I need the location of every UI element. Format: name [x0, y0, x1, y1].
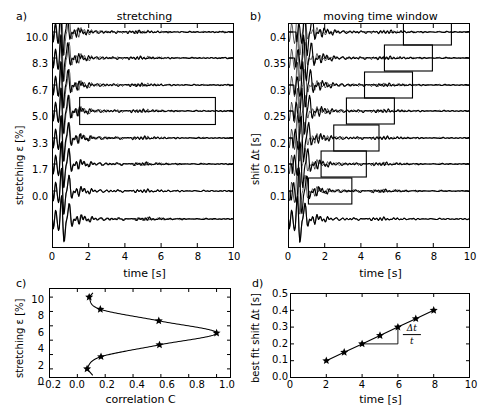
- panel-d-plot: Δtt: [290, 293, 470, 378]
- panel-b-ytick-5: 0.15: [248, 164, 286, 175]
- panel-c-data-point: [96, 305, 104, 313]
- panel-c-ytick-5: 10: [12, 294, 44, 305]
- panel-c-xtick-6: 1.0: [212, 379, 242, 390]
- panel-a-xtick-2: 4: [112, 251, 138, 262]
- panel-c-correlation-curve: [87, 293, 216, 376]
- panel-d-data-point: [322, 357, 330, 365]
- panel-b-trace-group: [289, 168, 470, 214]
- panel-c-data-point: [156, 341, 164, 349]
- panel-d-ytick-5: 0.5: [258, 288, 288, 299]
- panel-c-ytick-3: 6: [16, 327, 44, 338]
- panel-a-trace-group: [53, 23, 234, 55]
- panel-d-xtick-1: 2: [313, 379, 339, 390]
- panel-a-trace-group: [53, 35, 234, 82]
- panel-b-ytick-3: 0.25: [248, 111, 286, 122]
- panel-b-xtick-2: 4: [348, 251, 374, 262]
- panel-a-xtick-3: 6: [148, 251, 174, 262]
- panel-b-shifted-trace: [289, 196, 470, 242]
- panel-c-data-point: [97, 352, 105, 360]
- panel-b-ytick-0: 0.4: [248, 32, 286, 43]
- panel-c-ytick-1: 2: [16, 360, 44, 371]
- panel-a-ytick-1: 8.3: [10, 58, 48, 69]
- panel-d-ytick-4: 0.4: [258, 305, 288, 316]
- panel-b-reference-trace: [289, 23, 470, 55]
- panel-d-ytick-2: 0.2: [258, 338, 288, 349]
- panel-b-title: moving time window: [288, 10, 473, 23]
- panel-b-trace-group: [289, 23, 470, 56]
- panel-b-shifted-trace: [289, 23, 470, 55]
- panel-b-plot: [288, 23, 470, 248]
- panel-d-xtick-0: 0: [277, 379, 303, 390]
- panel-b-shifted-trace: [289, 62, 470, 107]
- panel-c-data-point: [155, 317, 163, 325]
- panel-a-xtick-0: 0: [39, 251, 65, 262]
- panel-b-xtick-3: 6: [385, 251, 411, 262]
- panel-d-ytick-3: 0.3: [258, 321, 288, 332]
- panel-d-annotation-denominator: t: [410, 336, 414, 346]
- panel-a-ytick-0: 10.0: [10, 32, 48, 43]
- panel-c-xtick-3: 0.4: [122, 379, 152, 390]
- panel-d-xtick-5: 10: [458, 379, 480, 390]
- panel-d-data-point: [340, 348, 348, 356]
- panel-c-ytick-4: 8: [16, 310, 44, 321]
- panel-c-xtick-4: 0.6: [152, 379, 182, 390]
- panel-b-trace-group: [289, 62, 470, 108]
- panel-c-xtick-5: 0.8: [182, 379, 212, 390]
- panel-a-ytick-6: 0.0: [10, 191, 48, 202]
- panel-b-ytick-6: 0.1: [248, 191, 286, 202]
- panel-c-xtick-1: 0.0: [62, 379, 92, 390]
- panel-a-ytick-5: 1.7: [10, 164, 48, 175]
- panel-b-xtick-5: 10: [457, 251, 480, 262]
- panel-c-frame: [50, 289, 231, 378]
- panel-b-xtick-0: 0: [275, 251, 301, 262]
- panel-a-trace-group: [53, 141, 234, 187]
- panel-d-ytick-1: 0.1: [258, 354, 288, 365]
- panel-c-xtick-2: 0.2: [92, 379, 122, 390]
- panel-a-trace-group: [53, 196, 234, 243]
- panel-a-xtick-1: 2: [75, 251, 101, 262]
- panel-c-xlabel: correlation C: [48, 393, 233, 406]
- panel-a-stretched-trace: [53, 196, 234, 241]
- panel-b-ytick-4: 0.2: [248, 138, 286, 149]
- panel-d-xtick-4: 8: [422, 379, 448, 390]
- panel-c-label: c): [16, 277, 26, 290]
- panel-d-data-point: [376, 331, 384, 339]
- panel-a-ytick-2: 6.7: [10, 85, 48, 96]
- panel-a-xtick-5: 10: [221, 251, 247, 262]
- panel-c-plot: [49, 288, 231, 378]
- figure-canvas: a) stretching stretching ε [%] time [s] …: [0, 0, 480, 413]
- panel-d-data-point: [412, 315, 420, 323]
- panel-d-xtick-2: 4: [349, 379, 375, 390]
- panel-a-ytick-3: 5.0: [10, 111, 48, 122]
- panel-d-data-point: [430, 306, 438, 314]
- panel-d-xtick-3: 6: [386, 379, 412, 390]
- panel-a-xtick-4: 8: [185, 251, 211, 262]
- panel-a-label: a): [16, 10, 27, 23]
- panel-a-xlabel: time [s]: [52, 267, 237, 280]
- panel-c-ytick-2: 4: [16, 343, 44, 354]
- panel-b-shifted-trace: [289, 168, 470, 214]
- panel-a-stretched-trace: [53, 168, 234, 214]
- panel-b-xlabel: time [s]: [288, 267, 473, 280]
- panel-a-stretched-trace: [53, 35, 234, 82]
- panel-a-plot: [52, 23, 234, 248]
- panel-a-reference-trace: [53, 23, 234, 55]
- panel-a-ytick-4: 3.3: [10, 138, 48, 149]
- panel-b-xtick-4: 8: [421, 251, 447, 262]
- panel-a-stretched-trace: [53, 23, 234, 55]
- panel-b-trace-group: [289, 35, 470, 81]
- panel-a-trace-group: [53, 168, 234, 214]
- panel-b-trace-group: [289, 196, 470, 242]
- panel-c-xtick-0: −0.2: [34, 379, 64, 390]
- panel-c-data-point: [83, 365, 91, 373]
- panel-d-annotation-numerator: Δt: [406, 323, 417, 333]
- panel-b-time-window: [403, 23, 451, 45]
- panel-b-ytick-2: 0.3: [248, 85, 286, 96]
- panel-b-ytick-1: 0.35: [248, 58, 286, 69]
- panel-b-label: b): [250, 10, 261, 23]
- panel-d-xlabel: time [s]: [288, 393, 473, 406]
- panel-b-xtick-1: 2: [312, 251, 338, 262]
- panel-a-title: stretching: [52, 10, 237, 23]
